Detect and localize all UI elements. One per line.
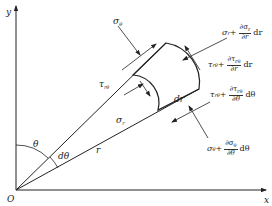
- sigma-theta-plus-arrow: [189, 106, 208, 138]
- dtheta-arc: [50, 157, 58, 168]
- sigma-r-arrow: [124, 84, 143, 95]
- element-dr-label: dr: [174, 95, 184, 104]
- tau-theta-plus-expression: τrθ + ∂τrθ∂θ dθ: [210, 86, 255, 103]
- theta-arc: [16, 145, 48, 158]
- radius-label: r: [96, 146, 100, 155]
- y-axis-label: y: [6, 8, 11, 17]
- tau-inner-arrow: [140, 81, 150, 96]
- sigma-r-label: σr: [116, 116, 125, 126]
- dtheta-label: dθ: [58, 152, 69, 161]
- theta-label: θ: [33, 140, 38, 149]
- sigma-theta-plus-expression: σθ + ∂σθ∂θ dθ: [207, 140, 250, 157]
- tau-r-plus-expression: τrθ + ∂τrθ∂r dr: [208, 56, 252, 73]
- tau-rtheta-label: τrθ: [99, 80, 109, 90]
- sigma-theta-arrow: [118, 26, 140, 55]
- radial-line-lower: [16, 89, 199, 190]
- sigma-r-plus-expression: σr + ∂σr∂r dr: [222, 24, 262, 41]
- sigma-theta-label: σθ: [113, 17, 122, 27]
- tau-theta-plus-arrow: [172, 102, 210, 122]
- origin-label: O: [7, 195, 14, 204]
- x-axis-label: x: [264, 196, 269, 205]
